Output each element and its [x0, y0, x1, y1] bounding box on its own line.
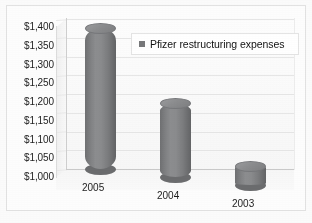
y-axis-tick-label: $1,300	[8, 59, 54, 70]
bar-top-ellipse	[85, 23, 116, 34]
legend-label: Pfizer restructuring expenses	[150, 38, 285, 50]
x-axis-tick-label: 2003	[232, 198, 254, 209]
bar-2005	[85, 28, 116, 169]
gridline-side	[56, 169, 68, 181]
x-axis-tick-label: 2005	[82, 182, 104, 193]
bar-2003	[235, 166, 266, 185]
y-axis-tick-label: $1,350	[8, 40, 54, 51]
y-axis-tick-label: $1,400	[8, 21, 54, 32]
gridline	[66, 19, 294, 20]
chart-container: $1,400$1,350$1,300$1,250$1,200$1,150$1,1…	[0, 0, 312, 223]
bar-2004	[160, 104, 191, 177]
y-axis-labels: $1,400$1,350$1,300$1,250$1,200$1,150$1,1…	[6, 0, 54, 223]
bar-top-ellipse	[235, 161, 266, 172]
bar-body	[85, 28, 116, 169]
x-axis-tick-label: 2004	[157, 190, 179, 201]
chart-legend: Pfizer restructuring expenses	[131, 33, 299, 55]
y-axis-outer-edge	[56, 26, 57, 178]
y-axis-tick-label: $1,150	[8, 115, 54, 126]
y-axis-tick-label: $1,000	[8, 171, 54, 182]
legend-swatch-icon	[139, 41, 145, 47]
y-axis-tick-label: $1,050	[8, 152, 54, 163]
y-axis-tick-label: $1,250	[8, 77, 54, 88]
bar-body	[160, 104, 191, 177]
y-axis-line	[66, 18, 67, 170]
y-axis-tick-label: $1,100	[8, 134, 54, 145]
y-axis-tick-label: $1,200	[8, 96, 54, 107]
